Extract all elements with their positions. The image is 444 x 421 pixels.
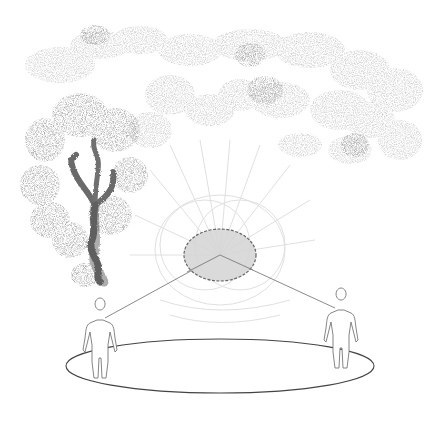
right-human-figure bbox=[324, 288, 358, 368]
diagram-canvas bbox=[0, 0, 444, 421]
ground-ring bbox=[66, 339, 374, 393]
left-human-figure bbox=[83, 298, 117, 378]
